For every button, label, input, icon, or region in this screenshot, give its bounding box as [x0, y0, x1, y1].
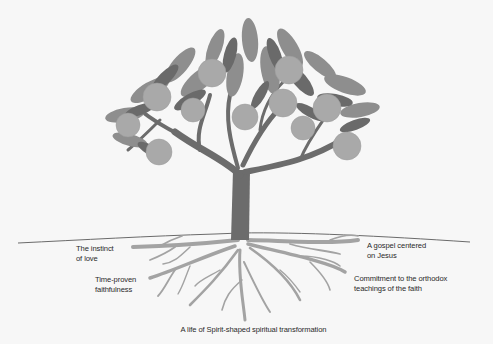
label-line: of love — [76, 254, 114, 264]
label-line: Commitment to the orthodox — [354, 274, 447, 284]
fruit — [275, 56, 303, 84]
fruit — [269, 89, 297, 117]
caption: A life of Spirit-shaped spiritual transf… — [0, 325, 493, 335]
label-gospel-centered: A gospel centered on Jesus — [367, 241, 426, 260]
label-line: faithfulness — [95, 285, 136, 295]
fruit — [232, 104, 258, 130]
fruit — [181, 98, 205, 122]
label-line: teachings of the faith — [354, 284, 447, 294]
fruit — [198, 59, 226, 87]
fruit — [146, 139, 172, 165]
label-line: on Jesus — [367, 251, 426, 261]
fruit — [116, 113, 140, 137]
label-instinct-of-love: The instinct of love — [76, 244, 114, 263]
roots — [133, 235, 358, 320]
label-line: A gospel centered — [367, 241, 426, 251]
label-time-proven-faithfulness: Time-proven faithfulness — [95, 275, 136, 294]
label-line: The instinct — [76, 244, 114, 254]
label-orthodox-commitment: Commitment to the orthodox teachings of … — [354, 274, 447, 293]
fruit — [143, 83, 171, 111]
fruit — [313, 94, 341, 122]
fruit — [333, 132, 361, 160]
label-line: Time-proven — [95, 275, 136, 285]
fruit — [291, 116, 315, 140]
